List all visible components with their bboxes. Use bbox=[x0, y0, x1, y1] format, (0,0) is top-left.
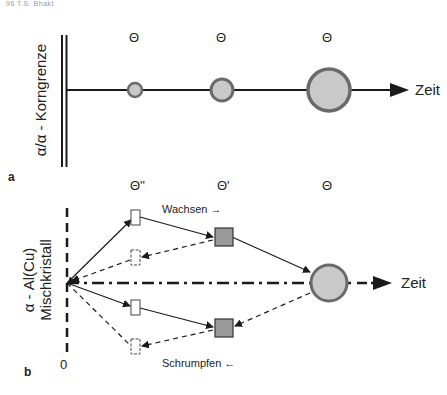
phase-label-theta-double-prime: Θ'' bbox=[130, 178, 145, 193]
panel-b-time-label: Zeit bbox=[401, 274, 426, 291]
grow-label: Wachsen → bbox=[162, 203, 222, 215]
panel-a bbox=[62, 35, 409, 167]
precipitation-diagram bbox=[0, 0, 447, 395]
theta-prime-upper bbox=[215, 228, 233, 246]
shrink-label: Schrumpfen ← bbox=[162, 357, 235, 369]
panel-a-label: a bbox=[8, 170, 15, 184]
matrix-label-line2: Mischkristall bbox=[37, 239, 54, 321]
matrix-label-line1: α - Al(Cu) bbox=[20, 248, 37, 313]
gp-zone-shrink-upper bbox=[131, 250, 140, 265]
panel-a-theta-label-1: Θ bbox=[129, 30, 139, 45]
particle-small bbox=[128, 83, 142, 97]
time-arrow-icon bbox=[373, 276, 392, 290]
phase-label-theta: Θ bbox=[322, 178, 332, 193]
theta-prime-lower bbox=[215, 319, 233, 337]
particle-large bbox=[308, 69, 350, 111]
gp-zone-grow-upper bbox=[131, 210, 140, 225]
theta-particle bbox=[311, 265, 347, 301]
panel-b-label: b bbox=[24, 365, 31, 379]
gp-zone-shrink-lower bbox=[131, 339, 140, 354]
grain-boundary bbox=[62, 35, 67, 167]
gp-zone-grow-lower bbox=[131, 300, 140, 315]
grain-boundary-label: α/α - Korngrenze bbox=[32, 44, 49, 156]
panel-a-time-label: Zeit bbox=[415, 81, 440, 98]
panel-a-theta-label-3: Θ bbox=[322, 30, 332, 45]
phase-label-theta-prime: Θ' bbox=[217, 178, 230, 193]
panel-a-theta-label-2: Θ bbox=[216, 30, 226, 45]
particle-medium bbox=[211, 79, 233, 101]
origin-label: 0 bbox=[60, 357, 67, 372]
panel-b bbox=[67, 208, 392, 358]
time-arrow-icon bbox=[390, 83, 409, 97]
